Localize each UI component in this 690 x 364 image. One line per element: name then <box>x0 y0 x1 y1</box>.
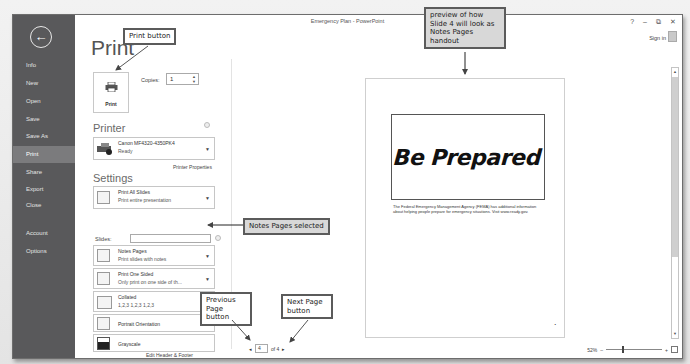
printer-icon <box>105 82 118 92</box>
copies-stepper[interactable]: 1 ▲▼ <box>166 73 199 85</box>
printer-properties-link[interactable]: Printer Properties <box>173 164 212 170</box>
chevron-down-icon: ▼ <box>205 195 210 201</box>
sidebar-item-export[interactable]: Export <box>13 181 75 198</box>
orientation-dropdown[interactable]: Portrait Orientation ▼ <box>93 314 215 332</box>
window-controls: ? – ⧉ ✕ <box>630 18 676 26</box>
collation-title: Collated <box>118 294 136 300</box>
layout-title: Notes Pages <box>118 248 147 254</box>
zoom-slider-knob[interactable] <box>622 346 624 353</box>
print-range-subtitle: Print entire presentation <box>118 197 171 203</box>
copies-label: Copies: <box>141 77 160 83</box>
slides-input[interactable] <box>130 234 211 243</box>
sides-subtitle: Only print on one side of th... <box>118 279 182 285</box>
info-icon[interactable] <box>204 122 210 128</box>
sidebar-item-options[interactable]: Options <box>13 243 75 260</box>
sides-dropdown[interactable]: Print One Sided Only print on one side o… <box>93 268 215 289</box>
sidebar-item-account[interactable]: Account <box>13 225 75 242</box>
zoom-to-page-icon[interactable] <box>671 346 678 353</box>
slide-thumbnail: Be Prepared <box>391 114 545 200</box>
chevron-down-icon: ▼ <box>205 276 210 282</box>
sides-title: Print One Sided <box>118 271 153 277</box>
powerpoint-window: ← Info New Open Save Save As Print Share… <box>12 14 683 359</box>
notes-page-preview: Be Prepared The Federal Emergency Manage… <box>365 78 565 338</box>
grayscale-icon <box>97 337 110 350</box>
zoom-level[interactable]: 52% <box>587 347 597 353</box>
collated-icon <box>97 296 112 309</box>
window-title: Emergency Plan - PowerPoint <box>13 18 682 24</box>
sidebar-item-info[interactable]: Info <box>13 57 75 74</box>
spin-arrows-icon[interactable]: ▲▼ <box>192 74 196 84</box>
help-icon[interactable]: ? <box>630 18 634 26</box>
chevron-down-icon: ▼ <box>205 253 210 259</box>
orientation-title: Portrait Orientation <box>118 321 160 327</box>
portrait-page-icon <box>97 317 110 330</box>
sidebar-item-save[interactable]: Save <box>13 111 75 128</box>
info-icon[interactable] <box>215 235 221 241</box>
color-title: Grayscale <box>118 341 141 347</box>
page-number-marker: • <box>555 322 556 327</box>
collation-dropdown[interactable]: Collated 1,2,3 1,2,3 1,2,3 ▼ <box>93 291 215 312</box>
back-arrow-icon[interactable]: ← <box>30 26 52 48</box>
user-avatar-icon[interactable] <box>668 31 677 42</box>
slide-title: Be Prepared <box>394 145 543 170</box>
collation-subtitle: 1,2,3 1,2,3 1,2,3 <box>118 302 154 308</box>
layout-subtitle: Print slides with notes <box>118 256 166 262</box>
callout-preview: preview of how Slide 4 will look as Note… <box>424 7 506 49</box>
sidebar-item-new[interactable]: New <box>13 75 75 92</box>
print-range-title: Print All Slides <box>118 189 150 195</box>
minimize-icon[interactable]: – <box>643 18 647 26</box>
zoom-out-button[interactable]: – <box>600 347 603 353</box>
print-button-label: Print <box>94 101 128 107</box>
edit-header-footer-link[interactable]: Edit Header & Footer <box>146 352 193 358</box>
printer-dropdown[interactable]: Canon MF4320-4350PK4 Ready ▼ <box>93 137 215 160</box>
sidebar-item-close[interactable]: Close <box>13 197 75 214</box>
printer-status: Ready <box>118 148 132 154</box>
callout-next-page: Next Page button <box>281 294 333 319</box>
screenshot-stage: ← Info New Open Save Save As Print Share… <box>0 0 690 364</box>
previous-page-button[interactable]: ◂ <box>249 346 252 352</box>
current-page-input[interactable]: 4 <box>255 344 268 353</box>
close-icon[interactable]: ✕ <box>670 18 676 26</box>
scroll-down-icon[interactable]: ▼ <box>672 330 678 338</box>
next-page-button[interactable]: ▸ <box>282 346 285 352</box>
scroll-up-icon[interactable]: ▲ <box>672 68 678 76</box>
settings-heading: Settings <box>93 172 133 184</box>
print-range-dropdown[interactable]: Print All Slides Print entire presentati… <box>93 186 215 209</box>
one-sided-icon <box>97 272 110 285</box>
color-dropdown[interactable]: Grayscale <box>93 334 215 352</box>
zoom-in-button[interactable]: + <box>665 347 668 353</box>
notes-page-icon <box>97 249 110 262</box>
printer-heading: Printer <box>93 122 125 134</box>
restore-icon[interactable]: ⧉ <box>656 18 661 26</box>
chevron-down-icon: ▼ <box>205 146 210 152</box>
slides-icon <box>97 191 110 204</box>
layout-dropdown[interactable]: Notes Pages Print slides with notes ▼ <box>93 245 215 266</box>
zoom-slider[interactable] <box>606 349 662 350</box>
backstage-sidebar: ← Info New Open Save Save As Print Share… <box>13 15 75 358</box>
print-button[interactable]: Print <box>93 72 129 113</box>
callout-notes-pages: Notes Pages selected <box>243 218 330 235</box>
vertical-scrollbar[interactable]: ▲ ▼ <box>671 67 679 339</box>
zoom-control: 52% – + <box>587 346 678 353</box>
sidebar-item-share[interactable]: Share <box>13 164 75 181</box>
callout-print-button: Print button <box>123 28 176 45</box>
slide-notes: The Federal Emergency Management Agency … <box>393 205 545 214</box>
sidebar-item-save-as[interactable]: Save As <box>13 128 75 145</box>
printer-name: Canon MF4320-4350PK4 <box>118 140 175 146</box>
page-navigator: ◂ 4 of 4 ▸ <box>249 344 285 353</box>
slides-label: Slides: <box>95 236 112 242</box>
printer-device-icon <box>97 143 113 155</box>
sidebar-item-print[interactable]: Print <box>13 146 75 163</box>
copies-value: 1 <box>170 76 173 82</box>
sidebar-item-open[interactable]: Open <box>13 93 75 110</box>
page-total: of 4 <box>271 346 279 352</box>
scrollbar-thumb[interactable] <box>672 77 678 257</box>
sign-in-link[interactable]: Sign in <box>649 35 666 41</box>
callout-previous-page: Previous Page button <box>200 292 252 326</box>
